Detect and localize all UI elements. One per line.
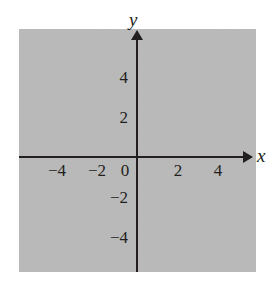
y-tick-label: −2 bbox=[100, 189, 128, 206]
x-tick-label: −4 bbox=[48, 162, 66, 179]
y-axis-line bbox=[136, 36, 138, 272]
coordinate-plane-figure: x y −4 −2 0 2 4 4 2 −2 −4 bbox=[0, 0, 278, 287]
grid-line-vertical bbox=[236, 29, 237, 272]
grid-line-vertical bbox=[79, 29, 80, 272]
grid-line-vertical bbox=[156, 29, 157, 272]
y-axis-label: y bbox=[129, 10, 137, 29]
grid-line-vertical bbox=[59, 29, 60, 272]
x-tick-label: 4 bbox=[214, 162, 223, 179]
grid-line-vertical bbox=[196, 29, 197, 272]
x-axis-arrowhead-icon bbox=[243, 151, 253, 163]
y-tick-label: 2 bbox=[108, 109, 128, 126]
y-tick-label: 4 bbox=[108, 69, 128, 86]
grid-line-vertical bbox=[255, 29, 256, 272]
x-tick-label: 2 bbox=[174, 162, 183, 179]
y-axis-arrowhead-icon bbox=[131, 30, 143, 40]
x-axis-line bbox=[19, 156, 249, 158]
grid-line-vertical bbox=[39, 29, 40, 272]
grid-line-vertical bbox=[19, 29, 20, 272]
y-tick-label: −4 bbox=[100, 229, 128, 246]
x-tick-label: −2 bbox=[88, 162, 106, 179]
x-axis-label: x bbox=[257, 146, 265, 165]
origin-label: 0 bbox=[121, 162, 130, 179]
grid-line-vertical bbox=[216, 29, 217, 272]
grid-line-vertical bbox=[176, 29, 177, 272]
